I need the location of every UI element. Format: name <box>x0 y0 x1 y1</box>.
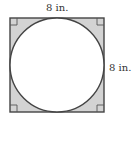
top-side-length-label: 8 in. <box>46 3 68 13</box>
inscribed-circle <box>10 18 104 112</box>
right-side-length-label: 8 in. <box>109 63 131 73</box>
inscribed-circle-diagram: 8 in. 8 in. <box>0 0 135 142</box>
